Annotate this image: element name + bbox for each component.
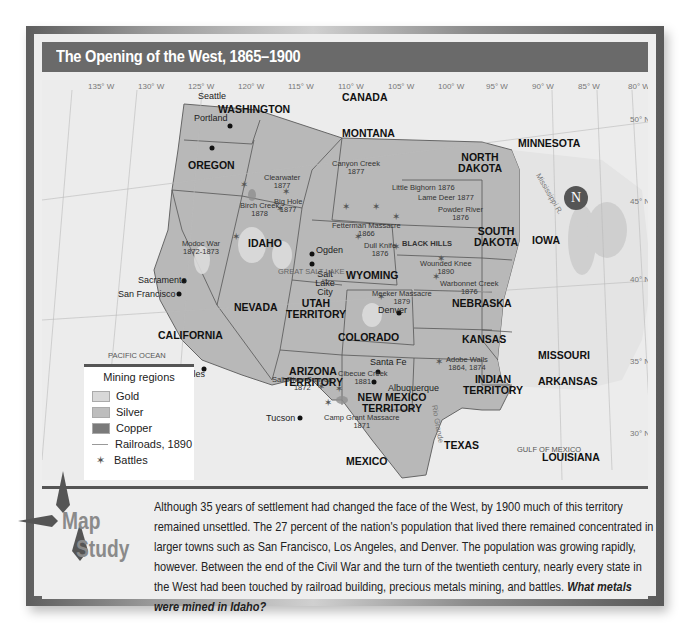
latitude-label: 30° N [630, 430, 648, 438]
city-label: Tucson [266, 414, 295, 423]
longitude-label: 135° W [88, 83, 114, 91]
battle-label: Fetterman Massacre1866 [332, 222, 401, 239]
state-label: WYOMING [346, 270, 399, 281]
state-label: NORTH DAKOTA [452, 152, 508, 174]
feature-label: BLACK HILLS [402, 240, 452, 248]
gold-swatch-icon [92, 391, 110, 402]
copper-swatch-icon [92, 423, 110, 434]
svg-text:✶: ✶ [324, 397, 332, 408]
state-label: MONTANA [342, 128, 395, 139]
state-label: OREGON [188, 160, 235, 171]
latitude-label: 50° N [630, 116, 648, 124]
state-label: CALIFORNIA [158, 330, 223, 341]
longitude-label: 130° W [138, 83, 164, 91]
battle-label: Little Bighorn 1876 [392, 184, 455, 192]
region-label: MEXICO [346, 456, 387, 467]
region-label: PACIFIC OCEAN [108, 352, 166, 360]
city-label: San Francisco [118, 290, 176, 299]
city-label: Ogden [316, 246, 343, 255]
compass-north-icon: N [564, 186, 588, 210]
feature-label: GREAT SALT LAKE [278, 268, 345, 276]
map-study-text: Although 35 years of settlement had chan… [154, 497, 654, 617]
state-label: LOUISIANA [542, 452, 600, 463]
battle-label: Powder River1876 [438, 206, 483, 223]
svg-text:✶: ✶ [232, 231, 240, 242]
city-label: Sacramento [138, 276, 187, 285]
railroad-line-icon [92, 444, 108, 445]
state-label: UTAH TERRITORY [286, 298, 346, 320]
legend-item-gold: Gold [92, 389, 139, 403]
battle-label: Lame Deer 1877 [418, 194, 474, 202]
longitude-label: 80° W [628, 83, 648, 91]
city-label: Denver [378, 306, 407, 315]
longitude-label: 95° W [486, 83, 508, 91]
battle-label: Camp Grant Massacre1871 [324, 414, 399, 431]
map-panel: The Opening of the West, 1865–1900 [34, 34, 656, 596]
battle-label: Big Hole1877 [274, 198, 302, 215]
longitude-label: 125° W [188, 83, 214, 91]
longitude-label: 85° W [578, 83, 600, 91]
city-label: Albuquerque [388, 384, 439, 393]
longitude-label: 120° W [238, 83, 264, 91]
state-label: KANSAS [462, 334, 506, 345]
legend-item-silver: Silver [92, 405, 144, 419]
map-frame: The Opening of the West, 1865–1900 [26, 26, 664, 606]
region-label: CANADA [342, 92, 388, 103]
latitude-label: 40° N [630, 276, 648, 284]
map-study-badge: Map Study [8, 461, 118, 571]
map-area: ✶✶✶ ✶✶✶ ✶✶✶ ✶✶✶ ✶✶✶ ✶ 135° W 130° W 125°… [42, 80, 648, 480]
battle-label: Clearwater1877 [264, 174, 300, 191]
state-label: WASHINGTON [218, 104, 290, 115]
map-title: The Opening of the West, 1865–1900 [56, 47, 300, 67]
state-label: INDIAN TERRITORY [462, 374, 524, 396]
silver-swatch-icon [92, 407, 110, 418]
latitude-label: 35° N [630, 358, 648, 366]
legend-item-copper: Copper [92, 421, 152, 435]
svg-text:✶: ✶ [372, 201, 380, 212]
battle-label: Warbonnet Creek1876 [440, 280, 499, 297]
state-label: IOWA [532, 235, 560, 246]
latitude-label: 45° N [630, 198, 648, 206]
city-label: Santa Fe [370, 358, 407, 367]
battle-label: Modoc War1872-1873 [182, 240, 220, 257]
battle-label: Meeker Massacre1879 [372, 290, 432, 307]
state-label: NEVADA [234, 302, 278, 313]
svg-text:✶: ✶ [435, 356, 443, 367]
longitude-label: 100° W [438, 83, 464, 91]
battle-label: Salt River Canyon1872 [272, 376, 332, 393]
state-label: IDAHO [248, 238, 282, 249]
legend-item-railroads: Railroads, 1890 [92, 437, 192, 451]
map-title-bar: The Opening of the West, 1865–1900 [42, 42, 648, 72]
battle-label: Canyon Creek1877 [332, 160, 380, 177]
state-label: NEBRASKA [452, 298, 512, 309]
state-label: MINNESOTA [518, 138, 580, 149]
longitude-label: 90° W [532, 83, 554, 91]
city-label: Seattle [198, 92, 226, 101]
svg-text:✶: ✶ [240, 179, 248, 190]
battle-label: Cibecue Creek1881 [338, 370, 388, 387]
battle-label: Dull Knife1876 [364, 242, 396, 259]
state-label: COLORADO [338, 332, 399, 343]
state-label: SOUTH DAKOTA [468, 226, 524, 248]
svg-text:✶: ✶ [342, 201, 350, 212]
state-label: ARKANSAS [538, 376, 598, 387]
legend-title: Mining regions [84, 371, 194, 383]
state-label: MISSOURI [538, 350, 590, 361]
battle-label: Adobe Walls1864, 1874 [446, 356, 488, 373]
longitude-label: 110° W [338, 83, 364, 91]
battle-label: Wounded Knee1890 [420, 260, 472, 277]
state-label: NEW MEXICO TERRITORY [352, 392, 432, 414]
map-study-section: Map Study Although 35 years of settlemen… [42, 486, 648, 599]
longitude-label: 105° W [388, 83, 414, 91]
city-label: Portland [194, 114, 228, 123]
state-label: TEXAS [444, 440, 479, 451]
longitude-label: 115° W [288, 83, 314, 91]
